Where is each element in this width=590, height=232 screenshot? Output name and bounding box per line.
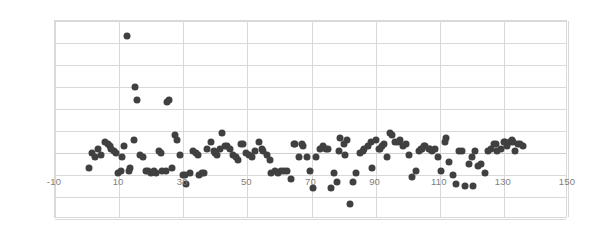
- x-tick-label-90: 90: [369, 176, 380, 187]
- x-tick-label-10: 10: [113, 176, 124, 187]
- x-tick-label-130: 130: [495, 176, 511, 187]
- scatter-chart: -30-20-100102030405060 -1010305070901101…: [0, 0, 590, 232]
- x-tick-label-110: 110: [431, 176, 447, 187]
- x-axis-tick-labels: -101030507090110130150: [0, 0, 590, 232]
- x-tick-label-50: 50: [241, 176, 252, 187]
- x-tick-label--10: -10: [47, 176, 61, 187]
- x-tick-label-70: 70: [305, 176, 316, 187]
- x-tick-label-150: 150: [559, 176, 575, 187]
- x-tick-label-30: 30: [177, 176, 188, 187]
